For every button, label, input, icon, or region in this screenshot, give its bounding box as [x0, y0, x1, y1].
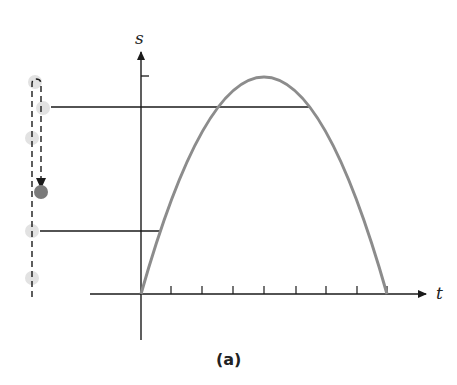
s-axis-label: s: [135, 28, 144, 48]
figure-canvas: [0, 0, 457, 385]
t-axis-label: t: [436, 283, 443, 303]
figure-caption: (a): [216, 350, 241, 369]
ball: [34, 185, 48, 199]
t-axis-ticks: [171, 286, 387, 294]
position-curve: [141, 77, 387, 294]
